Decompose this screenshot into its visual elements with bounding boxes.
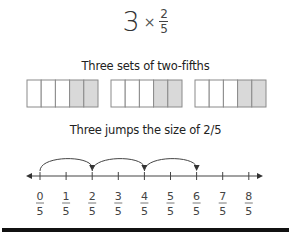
tick-label-numerator: 4 <box>141 190 148 203</box>
unshaded-part <box>41 80 55 107</box>
jump-arc <box>144 159 196 171</box>
shaded-part <box>252 80 266 107</box>
unshaded-part <box>223 80 237 107</box>
tick-label-denominator: 5 <box>37 205 44 218</box>
tick-label-denominator: 5 <box>245 205 252 218</box>
tick-label-denominator: 5 <box>89 205 96 218</box>
fraction-set <box>195 80 266 107</box>
tick-label-numerator: 5 <box>167 190 174 203</box>
shaded-part <box>84 80 98 107</box>
tick-label-numerator: 6 <box>193 190 200 203</box>
bottom-rule <box>2 228 289 232</box>
fraction-set <box>111 80 182 107</box>
unshaded-part <box>27 80 41 107</box>
tick-label-denominator: 5 <box>141 205 148 218</box>
tick-label-denominator: 5 <box>219 205 226 218</box>
tick-label-numerator: 7 <box>219 190 226 203</box>
jump-arc <box>92 159 144 171</box>
tick-label-denominator: 5 <box>115 205 122 218</box>
shaded-part <box>238 80 252 107</box>
tick-label-denominator: 5 <box>167 205 174 218</box>
number-line: 051525354555657585 <box>26 159 263 218</box>
bar-model <box>27 80 266 107</box>
fraction-set <box>27 80 98 107</box>
tick-label-numerator: 1 <box>63 190 70 203</box>
right-arrow-icon <box>257 173 263 179</box>
unshaded-part <box>139 80 153 107</box>
unshaded-part <box>195 80 209 107</box>
diagram-canvas: 051525354555657585 <box>0 0 291 237</box>
left-arrow-icon <box>26 173 32 179</box>
unshaded-part <box>55 80 69 107</box>
tick-label-denominator: 5 <box>63 205 70 218</box>
unshaded-part <box>111 80 125 107</box>
shaded-part <box>168 80 182 107</box>
tick-label-numerator: 8 <box>245 190 252 203</box>
unshaded-part <box>125 80 139 107</box>
unshaded-part <box>209 80 223 107</box>
tick-label-numerator: 0 <box>37 190 44 203</box>
shaded-part <box>154 80 168 107</box>
tick-label-denominator: 5 <box>193 205 200 218</box>
tick-label-numerator: 2 <box>89 190 96 203</box>
jump-arc <box>40 159 92 171</box>
shaded-part <box>70 80 84 107</box>
tick-label-numerator: 3 <box>115 190 122 203</box>
